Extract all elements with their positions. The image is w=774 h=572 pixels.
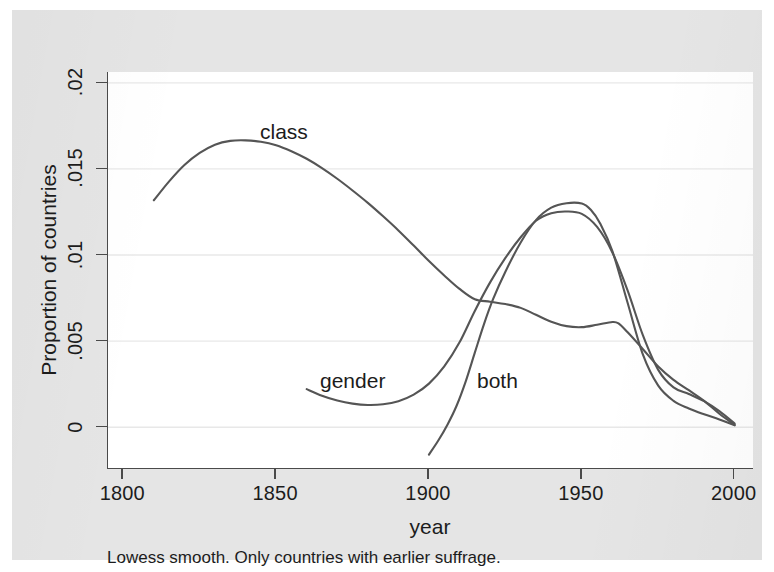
y-tick-label: .005 [64, 321, 87, 361]
x-tick-mark [274, 468, 276, 479]
y-tick-label: .015 [64, 149, 87, 189]
x-tick-label: 1900 [405, 482, 450, 505]
x-tick-label: 1950 [558, 482, 603, 505]
series-paths [154, 140, 735, 454]
y-tick-mark [96, 340, 107, 342]
x-tick-mark [580, 468, 582, 479]
series-label-gender: gender [320, 369, 385, 393]
figure-caption: Lowess smooth. Only countries with earli… [107, 548, 501, 568]
y-tick-mark [96, 254, 107, 256]
x-tick-mark [427, 468, 429, 479]
series-line-both [429, 203, 735, 455]
series-label-both: both [477, 369, 518, 393]
y-axis-title: Proportion of countries [37, 164, 61, 375]
y-tick-label: .01 [64, 240, 87, 268]
x-tick-label: 1800 [100, 482, 145, 505]
y-tick-label: 0 [64, 421, 87, 432]
y-tick-mark [96, 426, 107, 428]
x-tick-mark [121, 468, 123, 479]
series-line-class [154, 140, 735, 425]
gridlines [108, 83, 753, 427]
plot-svg [108, 72, 753, 468]
y-tick-mark [96, 82, 107, 84]
x-tick-label: 2000 [711, 482, 756, 505]
y-tick-mark [96, 168, 107, 170]
series-label-class: class [260, 120, 308, 144]
x-tick-label: 1850 [252, 482, 297, 505]
figure-screenshot: 0.005.01.015.02 18001850190019502000 Pro… [0, 0, 774, 572]
plot-area [107, 72, 753, 469]
figure-panel: 0.005.01.015.02 18001850190019502000 Pro… [12, 10, 762, 560]
y-tick-label: .02 [64, 68, 87, 96]
x-axis-title: year [410, 515, 451, 539]
x-tick-mark [733, 468, 735, 479]
